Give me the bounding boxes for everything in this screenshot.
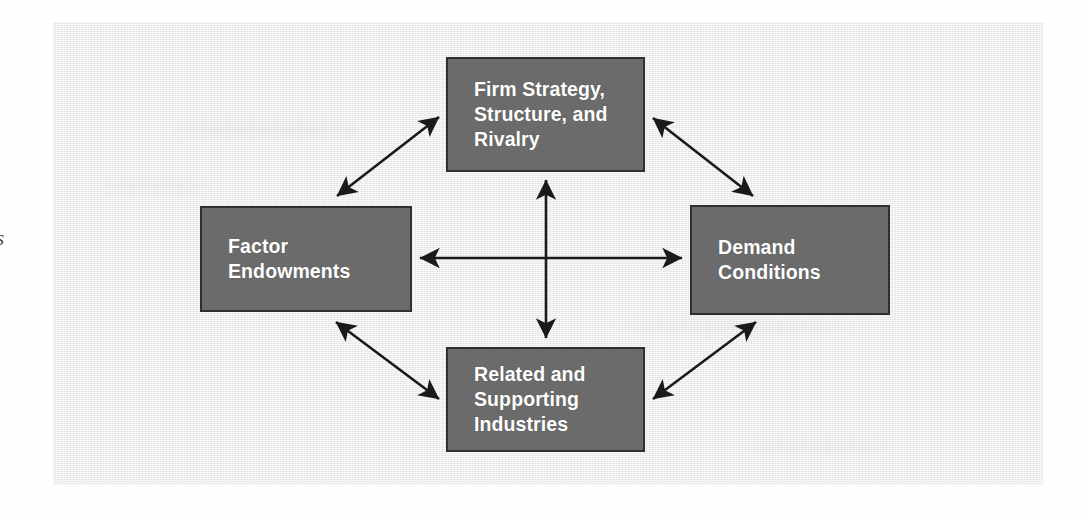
scan-page: s Firm Strategy, Structure, an bbox=[0, 0, 1087, 515]
scan-blemish bbox=[173, 122, 363, 136]
node-firm-strategy-label: Firm Strategy, Structure, and Rivalry bbox=[448, 77, 618, 151]
node-demand-conditions-label: Demand Conditions bbox=[692, 235, 831, 285]
scan-blemish bbox=[613, 322, 853, 332]
margin-cropped-glyph: s bbox=[0, 228, 4, 249]
node-related-and-supporting-industries: Related and Supporting Industries bbox=[446, 347, 645, 452]
node-factor-endowments-label: Factor Endowments bbox=[202, 234, 360, 284]
node-demand-conditions: Demand Conditions bbox=[690, 205, 890, 315]
node-factor-endowments: Factor Endowments bbox=[200, 206, 412, 312]
scan-blemish bbox=[93, 182, 213, 190]
scan-blemish bbox=[743, 442, 893, 451]
node-firm-strategy-structure-rivalry: Firm Strategy, Structure, and Rivalry bbox=[446, 57, 645, 172]
node-related-supporting-label: Related and Supporting Industries bbox=[448, 362, 596, 436]
